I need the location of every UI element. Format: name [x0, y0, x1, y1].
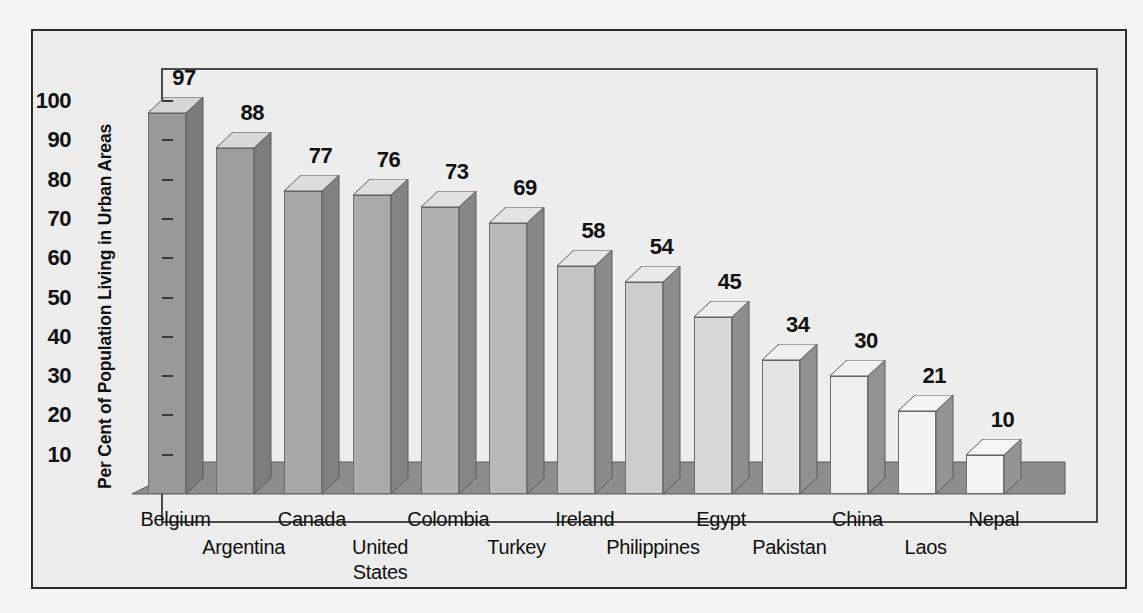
- y-tick-mark: [162, 336, 173, 338]
- bar-turkey: [489, 207, 544, 494]
- x-axis-label-pakistan: Pakistan: [714, 535, 864, 560]
- bar-value-label: 73: [432, 159, 482, 185]
- bar-colombia: [421, 191, 476, 494]
- figure: Per Cent of Population Living in Urban A…: [0, 0, 1143, 613]
- x-axis-label-colombia: Colombia: [373, 507, 523, 532]
- bar-value-label: 21: [909, 363, 959, 389]
- bar-pakistan: [762, 344, 817, 494]
- x-axis-label-philippines: Philippines: [578, 535, 728, 560]
- bar-side-face: [391, 179, 410, 496]
- bar-front-face: [830, 376, 868, 494]
- bar-argentina: [216, 132, 271, 494]
- y-tick-mark: [162, 454, 173, 456]
- x-axis-label-argentina: Argentina: [169, 535, 319, 560]
- bar-side-face: [595, 250, 614, 496]
- y-tick-mark: [162, 257, 173, 259]
- bar-value-label: 30: [841, 328, 891, 354]
- y-tick-label: 90: [11, 127, 71, 153]
- bar-side-face: [663, 266, 682, 496]
- bar-value-label: 10: [977, 407, 1027, 433]
- bar-side-face: [186, 97, 205, 496]
- bar-ireland: [557, 250, 612, 494]
- x-axis-label-belgium: Belgium: [101, 507, 251, 532]
- bar-belgium: [148, 97, 203, 494]
- x-axis-label-laos: Laos: [851, 535, 1001, 560]
- bar-canada: [284, 175, 339, 494]
- x-axis-label-united-states: UnitedStates: [305, 535, 455, 585]
- y-tick-mark: [162, 179, 173, 181]
- bar-value-label: 45: [705, 269, 755, 295]
- x-axis-label-turkey: Turkey: [442, 535, 592, 560]
- bar-value-label: 77: [295, 143, 345, 169]
- bar-philippines: [625, 266, 680, 494]
- y-tick-label: 100: [11, 88, 71, 114]
- y-tick-label: 40: [11, 324, 71, 350]
- bar-side-face: [254, 132, 273, 496]
- y-tick-mark: [162, 139, 173, 141]
- bar-front-face: [284, 191, 322, 494]
- chart-outer-frame: Per Cent of Population Living in Urban A…: [31, 29, 1127, 589]
- bar-side-face: [322, 175, 341, 496]
- bar-value-label: 97: [159, 65, 209, 91]
- y-tick-label: 30: [11, 363, 71, 389]
- bar-top-face: [421, 191, 478, 209]
- y-tick-mark: [162, 218, 173, 220]
- bar-value-label: 88: [227, 100, 277, 126]
- bar-egypt: [694, 301, 749, 494]
- y-tick-mark: [162, 375, 173, 377]
- bar-front-face: [216, 148, 254, 494]
- bar-front-face: [966, 455, 1004, 494]
- y-tick-mark: [162, 414, 173, 416]
- bar-value-label: 69: [500, 175, 550, 201]
- bar-value-label: 54: [636, 234, 686, 260]
- bar-top-face: [694, 301, 751, 319]
- bar-nepal: [966, 439, 1021, 494]
- bar-laos: [898, 395, 953, 494]
- y-tick-label: 10: [11, 442, 71, 468]
- bar-front-face: [762, 360, 800, 494]
- y-tick-label: 80: [11, 167, 71, 193]
- bar-top-face: [625, 266, 682, 284]
- bar-value-label: 34: [773, 312, 823, 338]
- bar-side-face: [868, 360, 887, 496]
- bar-top-face: [148, 97, 205, 115]
- bar-value-label: 76: [364, 147, 414, 173]
- bar-value-label: 58: [568, 218, 618, 244]
- bar-top-face: [966, 439, 1023, 457]
- y-tick-mark: [162, 297, 173, 299]
- bar-top-face: [830, 360, 887, 378]
- bar-top-face: [353, 179, 410, 197]
- bar-front-face: [625, 282, 663, 494]
- bar-front-face: [353, 195, 391, 494]
- bar-side-face: [800, 344, 819, 496]
- bar-front-face: [898, 411, 936, 494]
- bar-side-face: [459, 191, 478, 496]
- x-axis-label-egypt: Egypt: [646, 507, 796, 532]
- bar-side-face: [527, 207, 546, 496]
- bar-front-face: [489, 223, 527, 494]
- bar-front-face: [148, 113, 186, 494]
- x-axis-label-nepal: Nepal: [919, 507, 1069, 532]
- bar-front-face: [557, 266, 595, 494]
- bar-top-face: [557, 250, 614, 268]
- bar-united-states: [353, 179, 408, 494]
- x-axis-label-canada: Canada: [237, 507, 387, 532]
- bar-top-face: [762, 344, 819, 362]
- x-axis-label-ireland: Ireland: [510, 507, 660, 532]
- bar-china: [830, 360, 885, 494]
- bar-front-face: [694, 317, 732, 494]
- y-tick-label: 50: [11, 285, 71, 311]
- x-axis-label-china: China: [783, 507, 933, 532]
- bar-front-face: [421, 207, 459, 494]
- y-tick-label: 70: [11, 206, 71, 232]
- bar-side-face: [732, 301, 751, 496]
- y-tick-mark: [162, 100, 173, 102]
- bar-top-face: [216, 132, 273, 150]
- y-tick-label: 20: [11, 402, 71, 428]
- bar-top-face: [898, 395, 955, 413]
- bar-top-face: [489, 207, 546, 225]
- bar-top-face: [284, 175, 341, 193]
- y-tick-label: 60: [11, 245, 71, 271]
